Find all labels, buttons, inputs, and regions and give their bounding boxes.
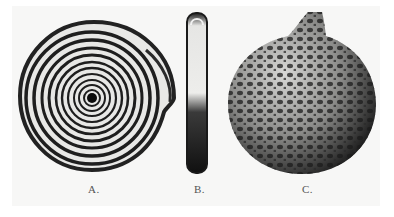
panel-label-c: C. xyxy=(302,183,313,195)
reticulated-sphere-illustration xyxy=(226,8,378,176)
figure-canvas: A. B. C. xyxy=(0,0,394,217)
panel-label-a: A. xyxy=(88,183,100,195)
panel-label-b: B. xyxy=(194,183,205,195)
shell-edge-illustration xyxy=(184,11,210,175)
spiral-shell-illustration xyxy=(14,10,176,174)
